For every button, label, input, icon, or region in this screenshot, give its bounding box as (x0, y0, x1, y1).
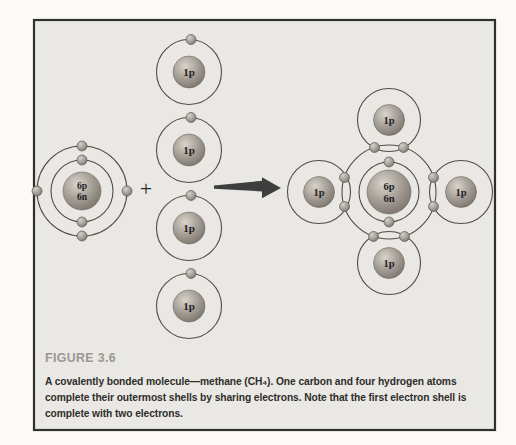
electron (399, 143, 409, 153)
carbon-protons-label: 6p (383, 181, 394, 192)
hydrogen-label: 1p (455, 187, 466, 198)
electron (77, 231, 87, 241)
electron (429, 173, 439, 183)
electron (384, 217, 394, 227)
electron (77, 141, 87, 151)
carbon-protons-label: 6p (77, 181, 87, 191)
plus-operator: + (140, 176, 152, 201)
electron (186, 269, 196, 279)
electron (340, 173, 350, 183)
figure-number-heading: FIGURE 3.6 (45, 350, 473, 365)
hydrogen-label: 1p (183, 144, 195, 156)
electron (77, 217, 87, 227)
electron (186, 35, 196, 45)
electron (384, 157, 394, 167)
caption-line-3: complete with two electrons. (45, 405, 443, 421)
electron (122, 186, 132, 196)
carbon-neutrons-label: 6n (383, 193, 394, 204)
hydrogen-label: 1p (383, 258, 394, 269)
hydrogen-label: 1p (183, 300, 195, 312)
hydrogen-label: 1p (313, 187, 324, 198)
carbon-neutrons-label: 6n (77, 192, 88, 202)
figure-caption: FIGURE 3.6 A covalently bonded molecule—… (45, 350, 495, 422)
electron (32, 186, 42, 196)
electron (77, 155, 87, 165)
electron (429, 202, 439, 212)
hydrogen-label: 1p (183, 222, 195, 234)
electron (369, 232, 379, 242)
electron (370, 143, 380, 153)
hydrogen-label: 1p (183, 66, 195, 78)
electron (186, 191, 196, 201)
electron (186, 113, 196, 123)
electron (340, 202, 350, 212)
textbook-figure-page: 6p 6n + 1p 1p (0, 0, 516, 445)
caption-line-2: complete their outermost shells by shari… (45, 389, 443, 405)
caption-line-1: A covalently bonded molecule—methane (CH… (45, 373, 443, 389)
electron (400, 232, 410, 242)
hydrogen-label: 1p (383, 115, 394, 126)
